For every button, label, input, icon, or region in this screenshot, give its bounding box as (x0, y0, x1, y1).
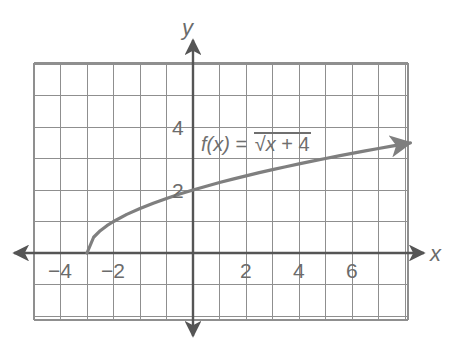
radicand-remainder: + 4 (276, 133, 310, 155)
y-axis-label: y (182, 17, 193, 39)
function-equation-label: f(x) = √x + 4 (201, 131, 310, 154)
radicand-variable: x (266, 133, 276, 155)
radicand: x + 4 (266, 131, 310, 154)
curve-path (87, 143, 410, 253)
function-curve (87, 143, 410, 253)
radical-expression: √x + 4 (253, 131, 310, 154)
radical-sign: √ (255, 133, 266, 155)
graph-figure: y x −4 −2 2 4 6 2 4 f(x) = √x + 4 (0, 0, 451, 343)
equals-sign: = (235, 133, 247, 155)
x-axis-label: x (430, 243, 441, 265)
x-tick-label-6: 6 (346, 260, 358, 281)
radical-bar (254, 132, 311, 134)
x-tick-label-neg4: −4 (48, 260, 72, 281)
y-tick-label-4: 4 (172, 117, 184, 138)
y-tick-label-2: 2 (172, 180, 184, 201)
graph-canvas (0, 0, 451, 343)
x-tick-label-4: 4 (293, 260, 305, 281)
function-name: f(x) (201, 133, 230, 155)
x-tick-label-neg2: −2 (101, 260, 125, 281)
x-tick-label-2: 2 (240, 260, 252, 281)
